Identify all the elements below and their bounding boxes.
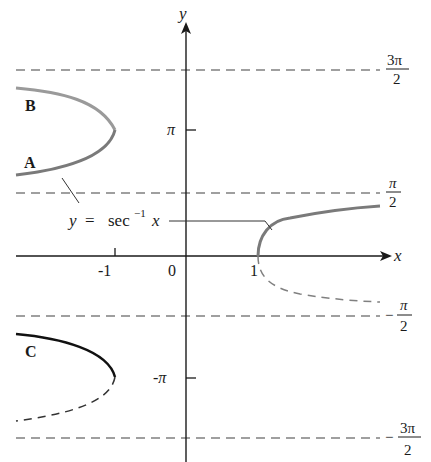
- function-label: y = sec −1 x: [67, 207, 160, 230]
- leader-line-right: [169, 221, 272, 230]
- y-tick-label-neg-pi: -π: [153, 369, 167, 386]
- svg-text:2: 2: [389, 194, 397, 210]
- sec-inverse-diagram: y x -1 0 1 π -π 3π 2 π 2 − π 2 − 3π 2 y …: [0, 0, 431, 462]
- svg-text:2: 2: [400, 318, 408, 334]
- svg-text:3π: 3π: [400, 420, 416, 436]
- svg-text:2: 2: [404, 442, 412, 458]
- svg-text:sec: sec: [108, 211, 130, 230]
- y-axis-label: y: [177, 4, 187, 23]
- svg-text:π: π: [400, 297, 408, 313]
- svg-text:−1: −1: [134, 207, 146, 219]
- x-tick-label-neg1: -1: [98, 262, 111, 279]
- svg-text:3π: 3π: [387, 52, 403, 68]
- branch-label-C: C: [25, 343, 37, 360]
- label-neg-pi-over-2: − π 2: [385, 297, 412, 334]
- x-axis-label: x: [393, 246, 402, 265]
- curve-branch-C-dashed: [16, 377, 115, 421]
- label-neg-3pi-over-2: − 3π 2: [385, 420, 421, 458]
- svg-text:2: 2: [393, 71, 401, 87]
- svg-text:=: =: [85, 211, 95, 230]
- y-tick-label-pi: π: [167, 121, 176, 138]
- label-pi-over-2: π 2: [386, 175, 401, 210]
- x-tick-label-0: 0: [168, 262, 176, 279]
- x-tick-label-1: 1: [250, 262, 258, 279]
- branch-label-B: B: [25, 97, 36, 114]
- curve-principal-right: [258, 206, 380, 256]
- svg-text:−: −: [385, 307, 393, 323]
- svg-text:x: x: [151, 211, 160, 230]
- svg-text:−: −: [385, 429, 393, 445]
- svg-text:y: y: [67, 211, 77, 230]
- branch-label-A: A: [24, 154, 36, 171]
- svg-text:π: π: [389, 175, 397, 191]
- label-3pi-over-2: 3π 2: [386, 52, 409, 87]
- curve-right-dashed: [258, 256, 380, 302]
- leader-line-left: [62, 178, 79, 203]
